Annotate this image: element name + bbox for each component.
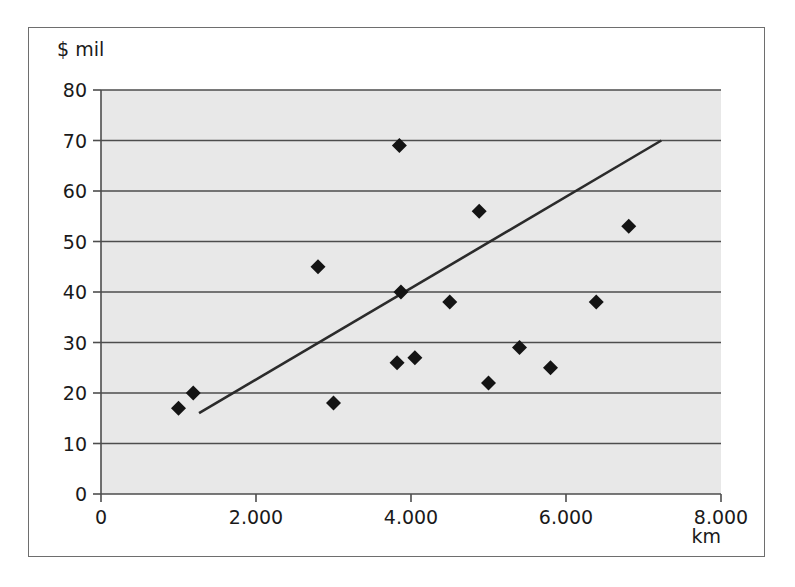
x-tick-label: 4.000 — [384, 506, 438, 528]
x-tick-label: 6.000 — [539, 506, 593, 528]
y-tick-label: 0 — [75, 483, 87, 505]
x-axis-tick-labels: 02.0004.0006.0008.000 — [95, 506, 748, 528]
y-axis-ticks — [93, 90, 101, 494]
y-tick-label: 80 — [63, 79, 87, 101]
y-tick-label: 30 — [63, 332, 87, 354]
y-axis-label: $ mil — [57, 38, 104, 60]
y-tick-label: 10 — [63, 433, 87, 455]
x-tick-label: 2.000 — [229, 506, 283, 528]
chart-frame: 01020304050607080 02.0004.0006.0008.000 … — [28, 27, 765, 557]
x-axis-ticks — [101, 494, 721, 502]
y-tick-label: 50 — [63, 231, 87, 253]
x-axis-label: km — [691, 525, 721, 547]
y-axis-tick-labels: 01020304050607080 — [63, 79, 87, 505]
scatter-chart: 01020304050607080 02.0004.0006.0008.000 … — [29, 28, 764, 556]
y-tick-label: 20 — [63, 382, 87, 404]
y-tick-label: 60 — [63, 180, 87, 202]
y-tick-label: 70 — [63, 130, 87, 152]
x-tick-label: 0 — [95, 506, 107, 528]
y-tick-label: 40 — [63, 281, 87, 303]
